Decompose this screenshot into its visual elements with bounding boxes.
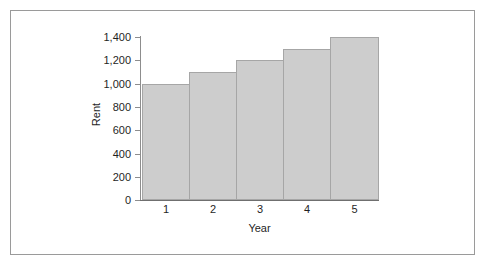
x-tick-label-5: 5 [330,203,379,215]
y-tick-label-1400: 1,400 [87,32,131,43]
y-tick-400 [135,154,140,155]
bar-year-4[interactable] [283,49,331,200]
figure-frame: 1,400 1,200 1,000 800 600 400 200 0 Rent [10,10,475,255]
bar-year-3[interactable] [236,60,284,200]
x-tick-label-4: 4 [283,203,331,215]
y-tick-label-1000: 1,000 [87,79,131,90]
y-tick-1000 [135,84,140,85]
y-tick-label-1200: 1,200 [87,55,131,66]
bar-year-5[interactable] [330,37,379,200]
clipped-caption-text [14,0,474,3]
x-axis-title: Year [140,222,379,234]
x-tick-label-1: 1 [142,203,190,215]
bar-year-2[interactable] [189,72,237,200]
y-tick-label-400: 400 [87,149,131,160]
bar-chart: 1,400 1,200 1,000 800 600 400 200 0 Rent [11,11,476,256]
y-tick-label-200: 200 [87,172,131,183]
x-axis-line [140,200,379,201]
bar-year-1[interactable] [142,84,190,200]
y-tick-600 [135,130,140,131]
y-axis-line [140,36,141,201]
y-tick-1200 [135,60,140,61]
y-tick-800 [135,107,140,108]
y-tick-0 [135,200,140,201]
y-tick-label-0: 0 [87,195,131,206]
y-tick-1400 [135,37,140,38]
y-axis-title: Rent [91,90,102,140]
x-tick-label-3: 3 [236,203,284,215]
x-tick-label-2: 2 [189,203,237,215]
y-tick-200 [135,177,140,178]
